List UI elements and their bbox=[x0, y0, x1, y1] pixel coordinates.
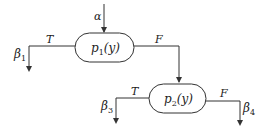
edge-line bbox=[206, 101, 240, 124]
arrowhead-icon bbox=[113, 118, 119, 124]
edge-line bbox=[116, 98, 149, 122]
arrowhead-icon bbox=[101, 27, 107, 33]
edge-label-T: T bbox=[46, 33, 55, 46]
target-beta-1: β1 bbox=[13, 47, 26, 63]
edge-line bbox=[29, 46, 75, 70]
entry-edge: α bbox=[94, 4, 107, 33]
edge-line bbox=[134, 46, 179, 82]
edge-label-F: F bbox=[154, 33, 163, 46]
arrowhead-icon bbox=[176, 77, 182, 83]
edge-label-F: F bbox=[219, 87, 228, 100]
target-beta-4: β4 bbox=[242, 101, 255, 117]
node-p1-label: p1(y) bbox=[91, 41, 120, 57]
arrowhead-icon bbox=[237, 120, 243, 126]
flow-diagram: α p1(y) T β1 F p2(y) T β3 F β4 bbox=[0, 0, 269, 131]
target-beta-3: β3 bbox=[100, 99, 113, 115]
edge-p1-false: F bbox=[134, 33, 182, 83]
edge-p2-false: F β4 bbox=[206, 87, 255, 126]
edge-p1-true: T β1 bbox=[13, 33, 75, 72]
edge-p2-true: T β3 bbox=[100, 85, 149, 124]
edge-label-T: T bbox=[131, 85, 140, 98]
arrowhead-icon bbox=[26, 66, 32, 72]
entry-label: α bbox=[94, 10, 102, 23]
node-p1: p1(y) bbox=[75, 33, 134, 62]
node-p2-label: p2(y) bbox=[164, 92, 193, 108]
node-p2: p2(y) bbox=[149, 84, 206, 113]
